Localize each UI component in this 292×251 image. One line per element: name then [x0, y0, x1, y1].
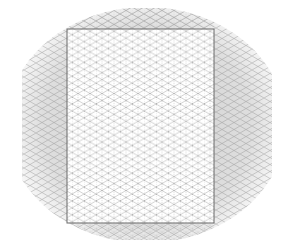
isometric-grid-canvas [0, 0, 292, 251]
page-sheet[interactable] [67, 29, 214, 223]
grid-canvas-svg [0, 0, 292, 251]
